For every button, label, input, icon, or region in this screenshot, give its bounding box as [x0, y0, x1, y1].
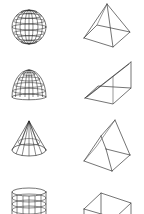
sphere-icon[interactable]: Sphere — [12, 10, 46, 44]
cylinder-icon[interactable]: Cylinder — [12, 188, 46, 214]
box-icon[interactable]: Box — [84, 193, 131, 214]
cone-icon[interactable]: Cone — [12, 121, 46, 156]
pyramid-icon[interactable]: Pyramid — [84, 4, 130, 47]
wedge-icon[interactable]: Wedge — [85, 62, 131, 104]
dome-icon[interactable]: Dome — [12, 70, 46, 100]
prism-icon[interactable]: Prism — [84, 120, 130, 171]
3d-objects-panel: 3D Objects Sphere Pyramid — [0, 0, 144, 214]
